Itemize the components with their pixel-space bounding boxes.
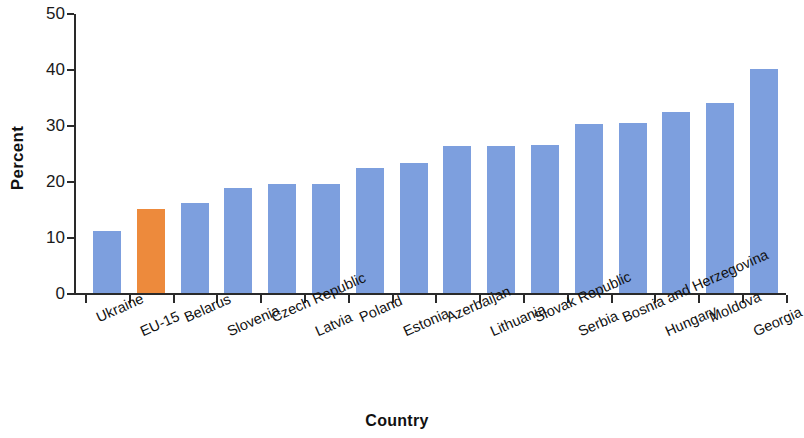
bar bbox=[224, 188, 252, 293]
x-axis-title: Country bbox=[0, 412, 794, 430]
y-tick-label: 10 bbox=[46, 228, 65, 248]
bar bbox=[268, 184, 296, 293]
x-category-label: EU-15 bbox=[138, 308, 182, 339]
plot-area: 01020304050 bbox=[74, 14, 786, 294]
x-category-label: Serbia bbox=[576, 308, 621, 340]
x-category-label: Georgia bbox=[751, 304, 804, 340]
x-axis-category-labels: UkraineEU-15BelarusSloveniaCzech Republi… bbox=[74, 294, 794, 404]
x-category-label: Ukraine bbox=[94, 290, 146, 325]
bar bbox=[400, 163, 428, 293]
bar bbox=[619, 123, 647, 293]
x-category-label: Poland bbox=[357, 292, 405, 325]
y-axis-title: Percent bbox=[8, 118, 28, 198]
y-tick-mark bbox=[67, 13, 74, 15]
bar bbox=[93, 231, 121, 293]
y-tick-label: 0 bbox=[56, 284, 65, 304]
y-tick-label: 30 bbox=[46, 116, 65, 136]
bar bbox=[575, 124, 603, 293]
x-category-label: Belarus bbox=[181, 291, 232, 326]
y-tick-mark bbox=[67, 181, 74, 183]
bar bbox=[487, 146, 515, 293]
x-category-label: Latvia bbox=[313, 309, 355, 339]
y-tick-mark bbox=[67, 293, 74, 295]
bar bbox=[443, 146, 471, 293]
x-category-label: Moldova bbox=[707, 288, 764, 325]
bar bbox=[662, 112, 690, 293]
y-tick-mark bbox=[67, 237, 74, 239]
y-tick-label: 50 bbox=[46, 4, 65, 24]
y-tick-mark bbox=[67, 69, 74, 71]
y-tick-mark bbox=[67, 125, 74, 127]
y-tick-label: 40 bbox=[46, 60, 65, 80]
y-axis-line bbox=[74, 14, 76, 294]
bar bbox=[181, 203, 209, 293]
y-tick-label: 20 bbox=[46, 172, 65, 192]
bar bbox=[312, 184, 340, 293]
bar bbox=[531, 145, 559, 293]
bar bbox=[137, 209, 165, 293]
